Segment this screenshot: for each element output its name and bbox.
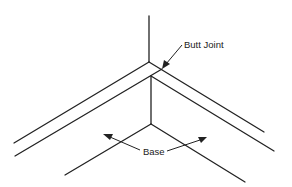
left-board-lower-edge (15, 69, 162, 156)
left-board-upper-edge (14, 62, 149, 143)
right-board-lower-edge (151, 76, 274, 151)
arrowhead-icon (103, 134, 113, 140)
butt-joint-label: Butt Joint (184, 39, 224, 50)
butt-joint-diagram: Butt Joint Base (0, 0, 292, 187)
base-callout: Base (103, 134, 207, 157)
base-right-edge (151, 124, 245, 182)
right-board-upper-edge (149, 62, 264, 132)
base-label: Base (143, 146, 165, 157)
butt-joint-callout: Butt Joint (162, 39, 224, 69)
